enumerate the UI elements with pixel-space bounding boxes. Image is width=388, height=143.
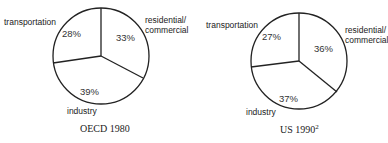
- label-residential: residential/: [345, 25, 387, 35]
- caption-footnote: 2: [315, 123, 319, 131]
- label-residential: residential/: [145, 15, 187, 25]
- pct-industry: 37%: [279, 93, 299, 104]
- label-transportation: transportation: [4, 17, 56, 27]
- pct-residential: 36%: [314, 43, 334, 54]
- pct-residential: 33%: [116, 32, 136, 43]
- label-commercial: commercial: [345, 35, 388, 45]
- pie-us-1990: 36% 27% 37% transportation residential/ …: [206, 13, 388, 135]
- caption-us-1990: US 19902: [280, 123, 319, 135]
- caption-oecd-1980: OECD 1980: [80, 123, 130, 134]
- pct-transportation: 28%: [62, 28, 82, 39]
- label-transportation: transportation: [206, 20, 258, 30]
- pct-industry: 39%: [80, 86, 100, 97]
- label-industry: industry: [246, 107, 277, 117]
- pct-transportation: 27%: [262, 31, 282, 42]
- pie-charts: 33% 28% 39% transportation residential/ …: [0, 0, 388, 143]
- caption-text: US 1990: [280, 124, 315, 135]
- label-industry: industry: [67, 106, 98, 116]
- pie-oecd-1980: 33% 28% 39% transportation residential/ …: [4, 8, 189, 134]
- label-commercial: commercial: [145, 25, 189, 35]
